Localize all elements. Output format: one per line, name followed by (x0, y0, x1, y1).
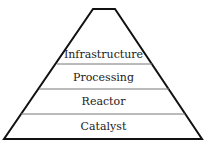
layer-label-catalyst: Catalyst (0, 120, 207, 133)
layer-label-reactor: Reactor (0, 95, 207, 108)
pyramid-diagram: Infrastructure Processing Reactor Cataly… (0, 0, 207, 148)
layer-label-infrastructure: Infrastructure (0, 48, 207, 61)
layer-label-processing: Processing (0, 71, 207, 84)
